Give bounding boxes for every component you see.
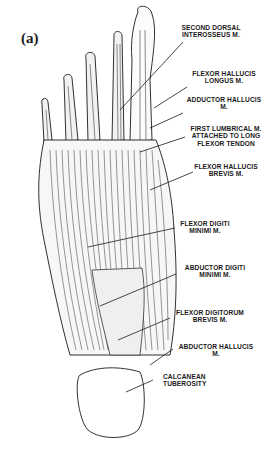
- label-line: MINIMI M.: [180, 271, 250, 278]
- label-line: ABDUCTOR HALLUCIS: [176, 343, 256, 350]
- label-line: LONGUS M.: [188, 77, 260, 84]
- label-line: M.: [176, 350, 256, 357]
- label-line: M.: [184, 103, 264, 110]
- label-line: CALCANEAN: [163, 373, 223, 380]
- label-flexor-hallucis-brevis: FLEXOR HALLUCIS BREVIS M.: [190, 163, 262, 178]
- label-line: TUBEROSITY: [163, 380, 223, 387]
- label-line: ABDUCTOR DIGITI: [180, 264, 250, 271]
- label-line: BREVIS M.: [190, 170, 262, 177]
- label-line: FLEXOR TENDON: [186, 140, 266, 147]
- label-flexor-hallucis-longus: FLEXOR HALLUCIS LONGUS M.: [188, 70, 260, 85]
- label-line: FLEXOR HALLUCIS: [188, 70, 260, 77]
- label-line: MINIMI M.: [172, 227, 238, 234]
- label-line: FIRST LUMBRICAL M.: [186, 125, 266, 132]
- label-line: FLEXOR HALLUCIS: [190, 163, 262, 170]
- label-calcanean-tuberosity: CALCANEAN TUBEROSITY: [163, 373, 223, 388]
- label-line: FLEXOR DIGITORUM: [172, 309, 248, 316]
- label-abductor-hallucis: ABDUCTOR HALLUCIS M.: [176, 343, 256, 358]
- label-line: SECOND DORSAL: [175, 24, 247, 31]
- label-line: BREVIS M.: [172, 316, 248, 323]
- label-flexor-digitorum-brevis: FLEXOR DIGITORUM BREVIS M.: [172, 309, 248, 324]
- label-line: ATTACHED TO LONG: [186, 132, 266, 139]
- label-adductor-hallucis: ADDUCTOR HALLUCIS M.: [184, 96, 264, 111]
- label-first-lumbrical: FIRST LUMBRICAL M. ATTACHED TO LONG FLEX…: [186, 125, 266, 147]
- label-line: ADDUCTOR HALLUCIS: [184, 96, 264, 103]
- label-line: INTEROSSEUS M.: [175, 31, 247, 38]
- foot-muscle-figure: (a): [0, 0, 278, 454]
- label-abductor-digiti-minimi: ABDUCTOR DIGITI MINIMI M.: [180, 264, 250, 279]
- label-line: FLEXOR DIGITI: [172, 220, 238, 227]
- label-flexor-digiti-minimi: FLEXOR DIGITI MINIMI M.: [172, 220, 238, 235]
- label-second-dorsal-interosseus: SECOND DORSAL INTEROSSEUS M.: [175, 24, 247, 39]
